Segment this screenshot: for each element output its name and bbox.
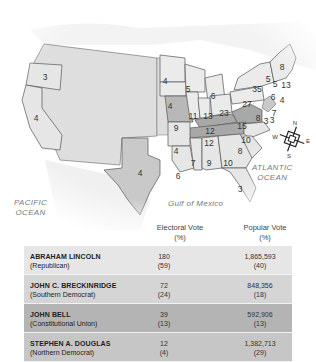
state-label: 23 bbox=[219, 109, 228, 118]
table-row-breckinridge: JOHN C. BRECKINRIDGE(Southern Democrat) … bbox=[24, 275, 292, 304]
state-label: 3 bbox=[264, 117, 269, 126]
state-label: 11 bbox=[189, 112, 198, 121]
state-label: 7 bbox=[191, 159, 196, 168]
state-label: 8 bbox=[256, 114, 261, 123]
table-row-bell: JOHN BELL(Constitutional Union) 39(13) 5… bbox=[24, 304, 292, 333]
atlantic-ocean-label: ATLANTICOCEAN bbox=[252, 163, 292, 183]
state-label: 6 bbox=[176, 172, 181, 181]
state-label: 3 bbox=[270, 116, 275, 125]
gulf-of-mexico-label: Gulf of Mexico bbox=[168, 199, 223, 209]
state-label: 8 bbox=[238, 147, 243, 156]
state-label: 13 bbox=[281, 81, 290, 90]
candidate-party: (Republican) bbox=[30, 262, 70, 269]
state-label: 12 bbox=[205, 127, 214, 136]
popular-pct: (13) bbox=[235, 319, 285, 328]
state-label: 10 bbox=[223, 159, 232, 168]
electoral-pct: (13) bbox=[151, 319, 177, 328]
electoral-votes: 12 bbox=[151, 339, 177, 348]
electoral-votes: 72 bbox=[151, 281, 177, 290]
state-label: 35 bbox=[252, 85, 261, 94]
state-label: 5 bbox=[186, 85, 191, 94]
electoral-vote-header: Electoral Vote(%) bbox=[150, 223, 210, 243]
electoral-votes: 39 bbox=[151, 310, 177, 319]
results-table: ABRAHAM LINCOLN(Republican) 180(59) 1,86… bbox=[24, 246, 292, 362]
state-label: 8 bbox=[280, 63, 285, 72]
candidate-name: JOHN C. BRECKINRIDGE bbox=[30, 282, 116, 289]
popular-votes: 848,356 bbox=[235, 281, 285, 290]
state-label: 4 bbox=[174, 147, 179, 156]
popular-pct: (40) bbox=[235, 261, 285, 270]
state-label: 3 bbox=[43, 73, 48, 82]
popular-votes: 592,906 bbox=[235, 310, 285, 319]
state-label: 4 bbox=[163, 77, 168, 86]
state-label: 13 bbox=[203, 112, 212, 121]
popular-votes: 1,865,593 bbox=[235, 252, 285, 261]
electoral-pct: (24) bbox=[151, 290, 177, 299]
state-label: 9 bbox=[174, 124, 179, 133]
state-label: 5 bbox=[273, 80, 278, 89]
candidate-name: ABRAHAM LINCOLN bbox=[30, 253, 101, 260]
election-map: 3 4 4 4 4 5 6 11 13 23 27 35 8 5 5 13 6 … bbox=[0, 0, 316, 230]
state-label: 6 bbox=[211, 92, 216, 101]
state-label: 4 bbox=[280, 96, 285, 105]
compass-w: W bbox=[272, 134, 278, 140]
candidate-party: (Northern Democrat) bbox=[30, 349, 94, 356]
popular-pct: (29) bbox=[235, 348, 285, 357]
table-row-lincoln: ABRAHAM LINCOLN(Republican) 180(59) 1,86… bbox=[24, 246, 292, 275]
candidate-party: (Constitutional Union) bbox=[30, 320, 97, 327]
popular-vote-header: Popular Vote(%) bbox=[235, 223, 295, 243]
state-label: 3 bbox=[238, 185, 243, 194]
state-label: 5 bbox=[266, 75, 271, 84]
candidate-name: JOHN BELL bbox=[30, 311, 71, 318]
state-label: 10 bbox=[241, 136, 250, 145]
pacific-ocean-label: PACIFICOCEAN bbox=[14, 198, 47, 218]
compass-rose-icon: N E S W bbox=[275, 122, 309, 156]
compass-n: N bbox=[293, 120, 297, 126]
popular-votes: 1,382,713 bbox=[235, 339, 285, 348]
state-label: 9 bbox=[207, 159, 212, 168]
state-label: 4 bbox=[168, 102, 173, 111]
table-row-douglas: STEPHEN A. DOUGLAS(Northern Democrat) 12… bbox=[24, 333, 292, 362]
compass-e: E bbox=[306, 138, 310, 144]
state-label: 12 bbox=[204, 139, 213, 148]
state-label: 4 bbox=[138, 169, 143, 178]
state-label: 15 bbox=[237, 122, 246, 131]
state-label: 27 bbox=[242, 100, 251, 109]
electoral-votes: 180 bbox=[151, 252, 177, 261]
candidate-name: STEPHEN A. DOUGLAS bbox=[30, 340, 111, 347]
electoral-pct: (59) bbox=[151, 261, 177, 270]
compass-s: S bbox=[287, 153, 291, 159]
electoral-pct: (4) bbox=[151, 348, 177, 357]
state-label: 6 bbox=[271, 93, 276, 102]
popular-pct: (18) bbox=[235, 290, 285, 299]
state-label: 4 bbox=[34, 114, 39, 123]
candidate-party: (Southern Democrat) bbox=[30, 291, 95, 298]
